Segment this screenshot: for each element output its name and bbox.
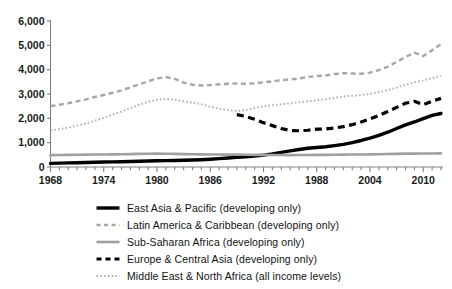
legend-item[interactable]: Sub-Saharan Africa (developing only) [96,233,426,250]
y-axis-tick-label: 2,000 [18,112,44,124]
y-axis-tick-label: 1,000 [18,136,44,148]
y-axis-tick-label: 3,000 [18,88,44,100]
legend-item-label: Middle East & North Africa (all income l… [127,270,341,282]
x-axis-tick-label: 1992 [252,174,276,186]
x-axis-tick-label: 1986 [199,174,223,186]
x-axis-tick-label: 2010 [412,174,436,186]
dashed-gray-line-icon [96,219,120,231]
chart-legend: East Asia & Pacific (developing only)Lat… [96,199,426,284]
legend-item-label: Latin America & Caribbean (developing on… [127,219,339,231]
x-axis-tick-label: 1968 [39,174,63,186]
series-line-3 [237,98,441,130]
x-axis-tick-label: 1980 [145,174,169,186]
legend-item-label: Europe & Central Asia (developing only) [127,253,317,265]
legend-item-label: East Asia & Pacific (developing only) [127,202,301,214]
line-chart-plot: 6,0005,0004,0003,0002,0001,0000196819741… [0,0,452,196]
series-line-1 [51,44,442,106]
legend-item[interactable]: Latin America & Caribbean (developing on… [96,216,426,233]
solid-gray-line-icon [96,236,120,248]
series-line-2 [51,153,442,155]
x-axis-tick-label: 1974 [92,174,116,186]
x-axis-tick-label: 1988 [305,174,329,186]
y-axis-tick-label: 4,000 [18,63,44,75]
legend-item-label: Sub-Saharan Africa (developing only) [127,236,305,248]
y-axis-tick-label: 5,000 [18,39,44,51]
x-axis-tick-label: 2004 [358,174,382,186]
dashed-thick-black-line-icon [96,253,120,265]
chart-figure: 6,0005,0004,0003,0002,0001,0000196819741… [0,0,452,289]
legend-item[interactable]: East Asia & Pacific (developing only) [96,199,426,216]
dotted-gray-line-icon [96,270,120,282]
solid-thick-black-line-icon [96,202,120,214]
legend-item[interactable]: Middle East & North Africa (all income l… [96,267,426,284]
y-axis-tick-label: 0 [39,161,45,173]
legend-item[interactable]: Europe & Central Asia (developing only) [96,250,426,267]
y-axis-tick-label: 6,000 [18,15,44,27]
